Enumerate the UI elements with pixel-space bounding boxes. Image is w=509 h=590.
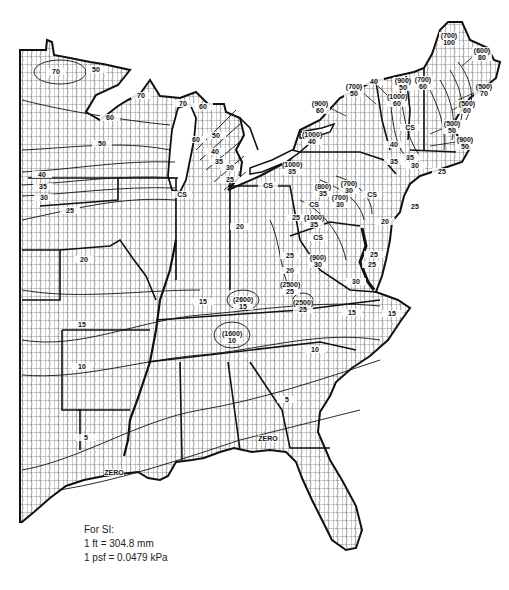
contour-label: 25: [432, 168, 452, 175]
contour-label: 40: [32, 171, 52, 178]
contour-label: CS: [400, 124, 420, 131]
contour-label: (500) 70: [474, 83, 494, 97]
contour-label: (2600) 15: [233, 296, 253, 310]
contour-label: 50: [92, 140, 112, 147]
contour-label: 30: [405, 162, 425, 169]
contour-label: 25: [405, 203, 425, 210]
contour-label: (900) 60: [310, 100, 330, 114]
contour-label: 15: [342, 309, 362, 316]
contour-label: 5: [76, 434, 96, 441]
contour-label: 25: [362, 261, 382, 268]
land-outline: [20, 22, 500, 550]
contour-label: 5: [277, 396, 297, 403]
contour-label: 70: [131, 92, 151, 99]
contour-label: (1000) 40: [302, 131, 322, 145]
contour-label: ZERO: [104, 469, 124, 476]
contour-label: 35: [384, 158, 404, 165]
contour-label: 25: [280, 252, 300, 259]
contour-label: 15: [72, 321, 92, 328]
contour-label: (700) 100: [439, 32, 459, 46]
contour-label: 60: [193, 103, 213, 110]
contour-label: CS: [304, 201, 324, 208]
contour-label: 20: [375, 218, 395, 225]
contour-label: 10: [305, 346, 325, 353]
contour-label: 25: [220, 176, 240, 183]
contour-label: (1000) 35: [282, 161, 302, 175]
contour-label: CS: [258, 182, 278, 189]
contour-label: 50: [206, 132, 226, 139]
contour-label: 10: [72, 363, 92, 370]
si-note-line-ft: 1 ft = 304.8 mm: [84, 537, 168, 551]
contour-label: (700) 50: [344, 83, 364, 97]
contour-label: 60: [186, 136, 206, 143]
contour-label: (1600) 10: [222, 330, 242, 344]
contour-label: CS: [308, 234, 328, 241]
contour-label: (2500) 25: [293, 299, 313, 313]
contour-label: 40: [205, 148, 225, 155]
contour-label: (900) 30: [308, 254, 328, 268]
contour-label: 40: [364, 78, 384, 85]
contour-label: 70: [46, 68, 66, 75]
contour-label: 20: [280, 267, 300, 274]
contour-label: ZERO: [258, 435, 278, 442]
contour-label: 15: [382, 310, 402, 317]
contour-label: 50: [86, 66, 106, 73]
contour-label: 20: [74, 256, 94, 263]
contour-label: (1000) 60: [387, 93, 407, 107]
contour-label: 70: [173, 100, 193, 107]
faded-caption: [90, 578, 470, 582]
contour-label: 15: [193, 298, 213, 305]
contour-label: 30: [220, 164, 240, 171]
contour-label: (600) 80: [472, 47, 492, 61]
contour-label: 35: [33, 183, 53, 190]
contour-label: 30: [346, 278, 366, 285]
si-note-heading: For SI:: [84, 523, 168, 537]
contour-label: CS: [172, 191, 192, 198]
si-conversion-note: For SI: 1 ft = 304.8 mm 1 psf = 0.0479 k…: [84, 523, 168, 565]
contour-label: 30: [34, 194, 54, 201]
contour-label: (900) 50: [455, 136, 475, 150]
contour-label: (1000) 35: [304, 214, 324, 228]
contour-label: 25: [60, 207, 80, 214]
contour-label: 25: [286, 214, 306, 221]
contour-label: (700) 30: [339, 180, 359, 194]
contour-label: (500) 50: [442, 120, 462, 134]
contour-label: (700) 60: [413, 76, 433, 90]
contour-label: 20: [230, 223, 250, 230]
contour-label: (900) 50: [393, 77, 413, 91]
contour-label: (500) 60: [457, 100, 477, 114]
contour-label: (2500) 25: [280, 281, 300, 295]
contour-label: 40: [384, 141, 404, 148]
contour-label: CS: [362, 191, 382, 198]
si-note-line-psf: 1 psf = 0.0479 kPa: [84, 551, 168, 565]
contour-label: (700) 30: [330, 194, 350, 208]
contour-label: 25: [364, 251, 384, 258]
contour-label: 60: [100, 114, 120, 121]
